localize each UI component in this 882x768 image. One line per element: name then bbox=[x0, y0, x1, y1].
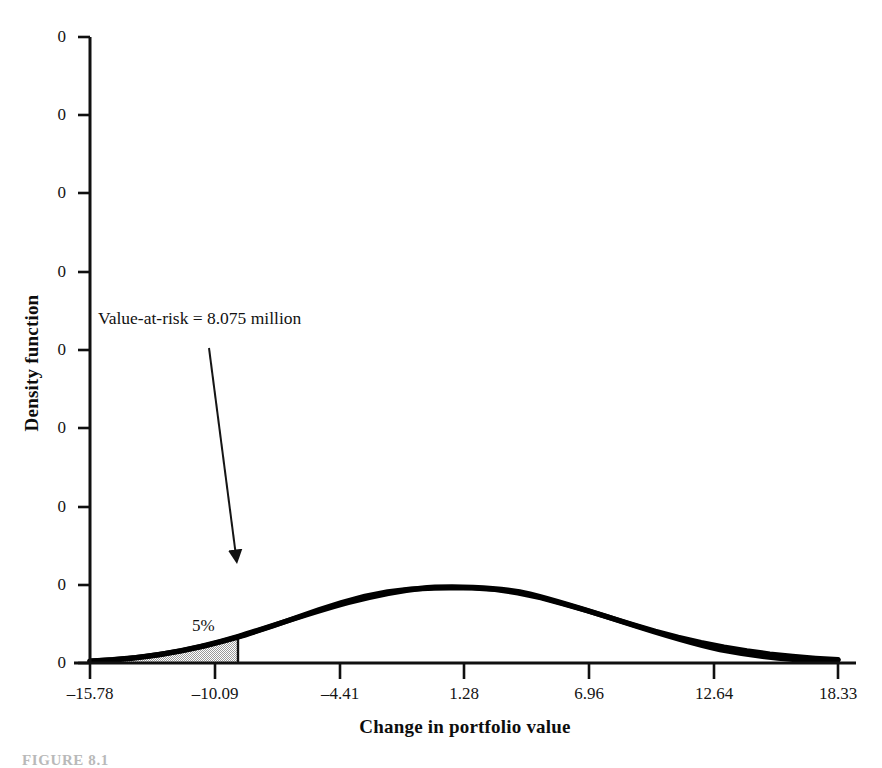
figure-caption: FIGURE 8.1 bbox=[22, 752, 109, 768]
y-axis-title: Density function bbox=[21, 253, 43, 473]
y-tick-label-6: 0 bbox=[36, 497, 66, 517]
density-chart bbox=[0, 0, 882, 768]
x-tick-label-2: –4.41 bbox=[321, 684, 359, 704]
x-tick-label-6: 18.33 bbox=[819, 684, 857, 704]
x-axis-title: Change in portfolio value bbox=[90, 716, 840, 738]
x-tick-label-5: 12.64 bbox=[695, 684, 733, 704]
x-tick-label-1: –10.09 bbox=[192, 684, 239, 704]
figure-container: 0 0 0 0 0 0 0 0 0 –15.78 –10.09 –4.41 1.… bbox=[0, 0, 882, 768]
y-tick-label-8: 0 bbox=[36, 653, 66, 673]
y-tick-label-2: 0 bbox=[36, 183, 66, 203]
y-tick-label-1: 0 bbox=[36, 105, 66, 125]
x-tick-label-0: –15.78 bbox=[67, 684, 114, 704]
y-tick-label-0: 0 bbox=[36, 27, 66, 47]
tail-probability-label: 5% bbox=[192, 616, 215, 636]
y-tick-label-7: 0 bbox=[36, 575, 66, 595]
x-tick-label-3: 1.28 bbox=[449, 684, 479, 704]
value-at-risk-annotation: Value-at-risk = 8.075 million bbox=[98, 308, 301, 329]
y-axis-ticks bbox=[78, 37, 90, 663]
x-tick-label-4: 6.96 bbox=[574, 684, 604, 704]
annotation-arrow bbox=[209, 348, 236, 556]
x-axis-ticks bbox=[90, 663, 838, 679]
